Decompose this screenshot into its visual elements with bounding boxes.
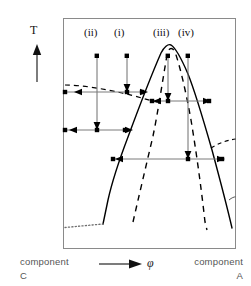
y-axis-label: T — [30, 23, 37, 38]
marker-dot-i — [125, 54, 129, 58]
spinodal-curve — [133, 48, 207, 230]
annotation-iii: (iii) — [153, 26, 170, 38]
dotted-baseline — [65, 224, 103, 228]
annotation-ii: (ii) — [84, 26, 97, 38]
left-component-label: component — [20, 256, 69, 268]
x-axis-label: φ — [147, 256, 154, 271]
tie-line-3 — [150, 98, 211, 104]
right-lower-tail — [229, 197, 236, 200]
right-component-symbol: A — [236, 270, 243, 282]
annotation-iv: (iv) — [178, 26, 194, 38]
right-upper-dashed-tail — [211, 139, 236, 148]
right-component-label: component — [194, 256, 243, 268]
annotation-i: (i) — [114, 26, 124, 38]
tie-line-4 — [111, 156, 225, 162]
x-axis-arrow — [99, 259, 142, 268]
marker-dot-iv — [186, 54, 190, 58]
plot-frame — [64, 19, 236, 249]
diagram-canvas — [0, 0, 251, 286]
phase-diagram-figure: T φ (i) (ii) (iii) (iv) component C comp… — [0, 0, 251, 286]
marker-dot-iii — [166, 54, 170, 58]
y-axis-arrow — [33, 44, 41, 82]
marker-dot-ii — [95, 54, 99, 58]
left-component-symbol: C — [20, 270, 27, 282]
